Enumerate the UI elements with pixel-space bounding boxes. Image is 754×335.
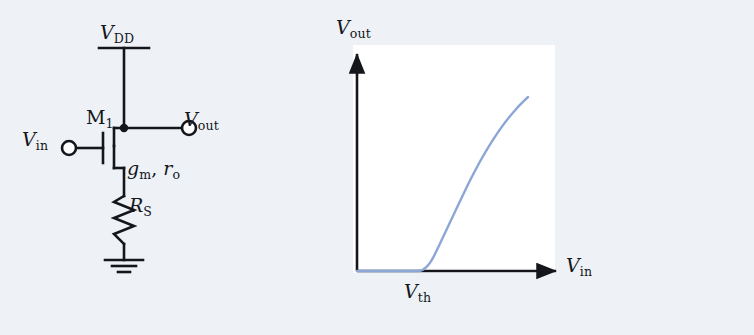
transistor-parameters-label: gm, ro <box>127 159 180 178</box>
vdd-label: VDD <box>100 23 134 42</box>
figure-container: VDD Vin M1 Vout gm, ro RS Vout Vin Vth <box>0 0 754 335</box>
source-resistor-label: RS <box>129 196 152 215</box>
transistor-label: M1 <box>86 108 114 127</box>
transfer-curve <box>357 97 528 271</box>
transfer-characteristic-graph <box>0 0 754 335</box>
graph-x-axis-label: Vin <box>566 256 592 275</box>
circuit-vout-label: Vout <box>184 110 219 129</box>
graph-y-axis-label: Vout <box>336 18 371 37</box>
threshold-voltage-label: Vth <box>404 282 431 301</box>
vin-label: Vin <box>22 130 48 149</box>
